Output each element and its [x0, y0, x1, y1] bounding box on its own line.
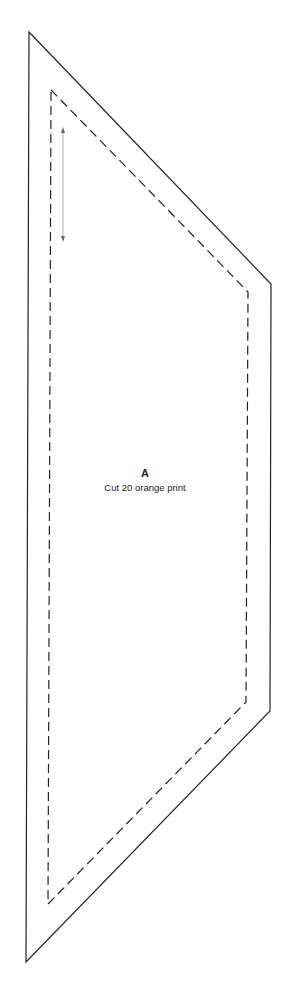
pattern-piece-diagram [0, 0, 297, 994]
piece-letter: A [0, 467, 290, 479]
seam-line-dashed [48, 90, 248, 904]
grain-line-arrow-icon [61, 127, 65, 242]
cut-instruction: Cut 20 orange print [0, 482, 290, 493]
